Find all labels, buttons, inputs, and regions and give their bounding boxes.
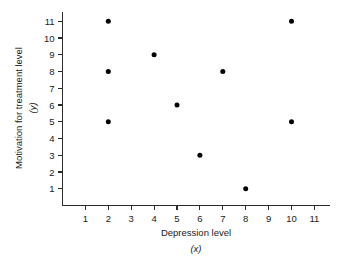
x-tick-label-2: 2 <box>106 213 111 224</box>
x-tick-label-9: 9 <box>266 213 271 224</box>
x-tick-label-11: 11 <box>309 213 319 224</box>
data-points-group <box>106 19 294 192</box>
y-axis-variable-label: (y) <box>27 102 38 113</box>
scatter-plot-figure: 1234567891011 1234567891011 Depression l… <box>0 0 353 264</box>
x-tick-label-3: 3 <box>129 213 134 224</box>
y-axis-title: Motivation for treatment level <box>13 47 24 169</box>
x-tick-label-7: 7 <box>220 213 225 224</box>
x-axis-variable-label: (x) <box>190 243 201 254</box>
y-tick-label-1: 1 <box>49 183 54 194</box>
y-tick-label-2: 2 <box>49 167 54 178</box>
data-point <box>175 103 180 108</box>
data-point <box>106 119 111 124</box>
data-point <box>197 153 202 158</box>
data-point <box>106 69 111 74</box>
x-tick-label-1: 1 <box>83 213 88 224</box>
x-axis-title: Depression level <box>161 227 231 238</box>
y-tick-marks <box>58 21 63 189</box>
y-tick-label-5: 5 <box>49 116 54 127</box>
axes-group <box>63 12 331 206</box>
x-tick-label-8: 8 <box>243 213 248 224</box>
x-tick-label-4: 4 <box>151 213 156 224</box>
y-tick-label-8: 8 <box>49 66 54 77</box>
y-tick-labels: 1234567891011 <box>44 16 55 195</box>
x-tick-label-10: 10 <box>286 213 297 224</box>
y-tick-label-10: 10 <box>44 33 55 44</box>
data-point <box>220 69 225 74</box>
data-point <box>152 52 157 57</box>
y-tick-label-11: 11 <box>45 16 55 27</box>
x-tick-marks <box>85 206 314 211</box>
y-tick-label-7: 7 <box>49 83 54 94</box>
scatter-plot-canvas: 1234567891011 1234567891011 Depression l… <box>0 0 353 264</box>
y-tick-label-6: 6 <box>49 100 54 111</box>
x-tick-label-5: 5 <box>174 213 179 224</box>
data-point <box>106 19 111 24</box>
data-point <box>289 119 294 124</box>
y-tick-label-9: 9 <box>49 49 54 60</box>
x-tick-labels: 1234567891011 <box>83 213 320 224</box>
y-tick-label-3: 3 <box>49 150 54 161</box>
x-tick-label-6: 6 <box>197 213 202 224</box>
data-point <box>289 19 294 24</box>
y-tick-label-4: 4 <box>49 133 54 144</box>
data-point <box>243 186 248 191</box>
